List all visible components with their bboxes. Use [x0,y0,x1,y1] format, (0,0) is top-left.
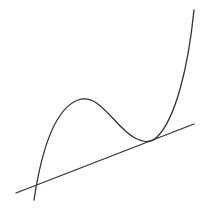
background [0,0,213,214]
diagram-canvas [0,0,213,214]
cubic-tangent-diagram [0,0,213,214]
